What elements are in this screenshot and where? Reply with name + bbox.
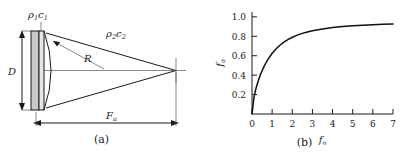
x-tick-label: 2 <box>289 119 295 129</box>
panel-b-caption: (b) <box>203 136 406 149</box>
transducer-backing <box>39 31 44 110</box>
focal-arrow-left <box>33 120 41 126</box>
label-focal-length-Fa: Fa <box>105 110 117 123</box>
y-tick-label: 0.8 <box>232 32 247 42</box>
transducer-slab <box>31 31 39 110</box>
y-axis-label: fa <box>214 59 227 68</box>
label-diameter-D: D <box>7 66 16 77</box>
x-tick-label: 7 <box>390 119 396 129</box>
x-tick-label: 3 <box>310 119 316 129</box>
data-curve <box>252 24 393 114</box>
radius-arrowhead <box>53 41 60 46</box>
label-rho2-c2: ρ2c2 <box>105 28 126 41</box>
radius-leader-line <box>53 41 104 69</box>
focal-arrow-right <box>171 120 179 126</box>
y-tick-label: 0.6 <box>232 51 247 61</box>
chart-plot-area: 012345670.20.40.60.81.0fofa <box>214 12 396 147</box>
x-tick-label: 0 <box>249 119 255 129</box>
x-tick-label: 4 <box>330 119 336 129</box>
x-tick-label: 1 <box>269 119 275 129</box>
y-tick-label: 0.2 <box>232 90 246 100</box>
y-tick-label: 1.0 <box>232 12 247 22</box>
label-rho1-c1: ρ1c1 <box>27 9 48 22</box>
label-radius-R: R <box>83 53 92 64</box>
panel-b-chart: 012345670.20.40.60.81.0fofa (b) <box>203 0 406 163</box>
lower-cone-ray <box>46 71 176 109</box>
x-tick-label: 5 <box>350 119 356 129</box>
figure-container: ρ1c1 ρ2c2 D R Fa (a) 012345670.20.40.60.… <box>0 0 406 163</box>
panel-a-focused-transducer-diagram: ρ1c1 ρ2c2 D R Fa (a) <box>0 0 203 163</box>
panel-a-caption: (a) <box>0 133 203 146</box>
y-tick-label: 0.4 <box>232 71 247 81</box>
x-tick-label: 6 <box>370 119 376 129</box>
